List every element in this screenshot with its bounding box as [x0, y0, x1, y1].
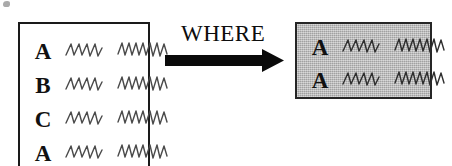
squiggle-short-icon [341, 69, 381, 91]
squiggle-long-icon [393, 36, 447, 58]
table-row: A [20, 34, 148, 68]
squiggle-long-icon [116, 142, 170, 164]
table-row: B [20, 68, 148, 102]
squiggle-long-icon [393, 69, 447, 91]
source-table-box: A B [18, 22, 150, 166]
squiggle-short-icon [64, 108, 104, 130]
table-row: A [297, 63, 430, 97]
where-operator-label: WHERE [181, 21, 285, 47]
row-key-label: C [25, 108, 61, 131]
diagram-canvas: A B [0, 0, 452, 166]
squiggle-short-icon [64, 74, 104, 96]
table-row: A [20, 136, 148, 166]
squiggle-long-icon [116, 108, 170, 130]
squiggle-long-icon [116, 40, 170, 62]
row-key-label: A [302, 69, 338, 92]
row-key-label: B [25, 74, 61, 97]
squiggle-short-icon [64, 142, 104, 164]
table-row: C [20, 102, 148, 136]
row-key-label: A [302, 36, 338, 59]
table-row: A [297, 30, 430, 64]
scan-speck-artifact [3, 1, 10, 7]
row-key-label: A [25, 142, 61, 165]
squiggle-long-icon [116, 74, 170, 96]
squiggle-short-icon [64, 40, 104, 62]
result-table-box: A A [295, 22, 432, 99]
squiggle-short-icon [341, 36, 381, 58]
row-key-label: A [25, 40, 61, 63]
right-arrow-icon [165, 49, 285, 73]
